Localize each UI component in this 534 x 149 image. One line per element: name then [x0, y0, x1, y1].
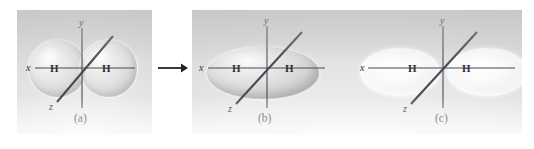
axis-label-y-c: y	[440, 16, 444, 26]
atom-label-h-right-c: H	[462, 63, 471, 74]
axis-label-x-b: x	[199, 63, 203, 73]
axis-label-y-a: y	[79, 18, 83, 28]
axis-label-x-a: x	[26, 63, 30, 73]
axis-label-z-a: z	[49, 102, 53, 112]
axis-label-x-c: x	[360, 63, 364, 73]
figure-canvas: x y z H H (a) x y z H H (b) +	[0, 0, 534, 149]
axis-label-z-b: z	[228, 104, 232, 114]
atom-label-h-left-c: H	[408, 63, 417, 74]
atom-label-h-left-b: H	[232, 63, 241, 74]
atom-label-h-right-a: H	[102, 63, 111, 74]
panel-bc: x y z H H (b) + x y z H H (c)	[192, 10, 522, 134]
axis-label-z-c: z	[403, 104, 407, 114]
reaction-arrow-icon	[158, 62, 188, 74]
axis-label-y-b: y	[264, 16, 268, 26]
panel-caption-c: (c)	[435, 113, 448, 125]
panel-caption-a: (a)	[74, 113, 87, 125]
panel-a: x y z H H (a)	[17, 10, 152, 134]
atom-label-h-left-a: H	[50, 63, 59, 74]
panel-caption-b: (b)	[258, 113, 271, 125]
atom-label-h-right-b: H	[285, 63, 294, 74]
axes-b	[192, 10, 357, 134]
